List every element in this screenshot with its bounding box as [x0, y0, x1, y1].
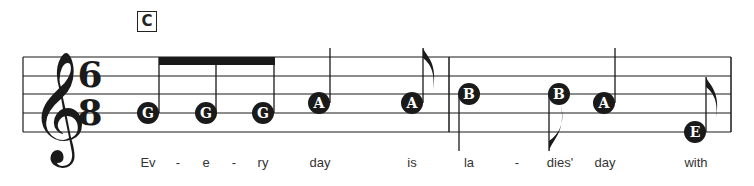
svg-text:A: A: [598, 95, 611, 111]
lyric-syllable: Ev: [140, 155, 155, 170]
lyric-syllable: e: [202, 155, 209, 170]
note-head: A: [593, 92, 615, 114]
svg-text:A: A: [313, 95, 326, 111]
note-head: G: [195, 102, 217, 124]
time-signature-bottom: 8: [77, 91, 102, 133]
note-head: A: [401, 92, 423, 114]
svg-text:G: G: [257, 105, 269, 121]
lyric-hyphen: -: [232, 155, 236, 170]
note-head: E: [684, 121, 706, 143]
svg-text:B: B: [463, 86, 475, 102]
music-staff: 𝄞 6 8 G G G A A B: [0, 0, 754, 186]
note-head: B: [548, 83, 570, 105]
lyric-hyphen: -: [176, 155, 180, 170]
note-head: A: [308, 92, 330, 114]
svg-text:B: B: [553, 86, 565, 102]
lyric-hyphen: -: [515, 155, 519, 170]
svg-text:A: A: [406, 95, 419, 111]
svg-text:G: G: [142, 105, 154, 121]
note-head: G: [252, 102, 274, 124]
lyric-syllable: day: [310, 155, 331, 170]
lyric-syllable: dies': [547, 155, 573, 170]
lyric-syllable: with: [684, 155, 707, 170]
time-signature-top: 6: [77, 53, 102, 95]
lyric-syllable: is: [407, 155, 416, 170]
note-head: B: [458, 83, 480, 105]
svg-text:G: G: [200, 105, 212, 121]
rehearsal-mark: C: [137, 11, 157, 32]
note-head: G: [137, 102, 159, 124]
lyric-syllable: day: [595, 155, 616, 170]
svg-text:E: E: [690, 124, 701, 140]
lyric-syllable: ry: [258, 155, 269, 170]
staff-lines: [23, 57, 731, 132]
lyric-syllable: la: [464, 155, 474, 170]
